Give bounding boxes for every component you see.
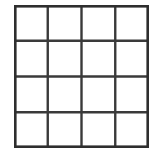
grid-cell[interactable] bbox=[115, 41, 149, 77]
grid-cell[interactable] bbox=[82, 41, 116, 77]
grid-cell[interactable] bbox=[48, 5, 82, 41]
grid-cell[interactable] bbox=[82, 112, 116, 148]
grid-cell[interactable] bbox=[82, 77, 116, 113]
grid-cell[interactable] bbox=[14, 77, 48, 113]
grid-cell[interactable] bbox=[14, 5, 48, 41]
grid-svg bbox=[14, 5, 149, 148]
figure-canvas bbox=[0, 0, 161, 156]
grid-cell[interactable] bbox=[48, 41, 82, 77]
grid-cell[interactable] bbox=[115, 5, 149, 41]
grid-cell[interactable] bbox=[115, 77, 149, 113]
grid-diagram bbox=[14, 5, 149, 148]
grid-cell[interactable] bbox=[48, 112, 82, 148]
grid-cell[interactable] bbox=[115, 112, 149, 148]
grid-cell[interactable] bbox=[14, 41, 48, 77]
grid-cell[interactable] bbox=[14, 112, 48, 148]
grid-cell[interactable] bbox=[82, 5, 116, 41]
grid-cell[interactable] bbox=[48, 77, 82, 113]
